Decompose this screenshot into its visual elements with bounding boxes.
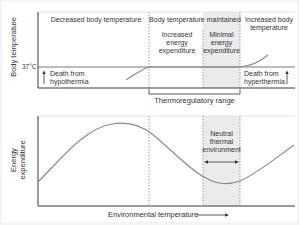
tick-37c: 37°C <box>22 63 37 71</box>
thermoregulatory-range-label: Thermoregulatory range <box>149 97 240 105</box>
minimal-energy-label: Minimal energy expenditure <box>202 31 241 55</box>
increased-energy-label: Increased energy expenditure <box>157 31 197 55</box>
diagram-graphics <box>0 0 299 225</box>
energy-expenditure-curve <box>38 123 294 184</box>
top-y-axis-label: Body temperature <box>10 12 18 82</box>
hypothermia-arrowhead-icon <box>42 71 45 75</box>
bottom-y-axis-label-line1: Energy <box>10 138 18 182</box>
region-increased-label: Increased body temperature <box>244 16 294 32</box>
figure: Body temperature 37°C Decreased body tem… <box>0 0 299 225</box>
region-decreased-label: Decreased body temperature <box>48 16 144 24</box>
thermoregulatory-range-bracket <box>149 89 240 94</box>
bottom-y-axis-label-line2: expenditure <box>19 136 27 184</box>
region-maintained-label: Body temperature maintained <box>149 16 241 24</box>
neutral-thermal-label: Neutral thermal environment <box>201 130 242 154</box>
x-axis-label: Environmental temperature <box>108 211 198 219</box>
environmental-arrowhead-icon <box>225 213 229 216</box>
death-hypothermia-label: Death from hypothermia <box>50 70 92 86</box>
death-hyperthermia-label: Death from hyperthermia <box>244 70 286 86</box>
